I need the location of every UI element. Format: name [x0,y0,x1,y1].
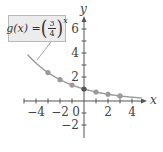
y-tick-label: 4 [71,46,79,60]
right-paren: ) [57,19,64,39]
data-point [69,82,74,87]
x-tick-label: 0 [72,105,80,119]
x-tick-labels: −4−2024 [27,105,136,119]
y-tick-label: 2 [71,70,79,84]
x-axis [24,99,147,104]
function-lhs: g(x) = [6,22,41,35]
data-point [57,77,62,82]
y-intercept-point [81,86,86,91]
base-fraction: 3 4 [48,19,55,38]
y-tick-label: −2 [61,118,79,132]
y-axis [82,16,87,138]
data-point [45,70,50,75]
left-paren: ( [41,19,48,39]
exponent: x [63,16,68,25]
x-tick-label: 4 [128,105,136,119]
y-axis-label: y [79,2,87,16]
x-tick-label: 2 [104,105,112,119]
x-tick-label: −4 [27,105,45,119]
y-axis-arrow-icon [82,16,87,22]
y-tick-label: 6 [71,22,79,36]
fraction-numerator: 3 [48,19,55,29]
fraction-denominator: 4 [49,29,54,38]
x-axis-label: x [150,93,157,107]
x-axis-arrow-icon [141,99,147,104]
function-label-callout: g(x) = ( 3 4 ) x [8,15,66,42]
data-point [105,92,110,97]
data-point [93,89,98,94]
data-point [117,93,122,98]
callout-leader-line [37,42,51,60]
x-tick-label: −2 [51,105,69,119]
